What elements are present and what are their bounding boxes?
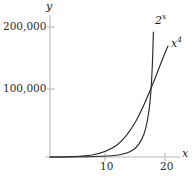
y-tick-label-200000: 200,000 bbox=[3, 21, 46, 32]
y-tick-label-100000: 100,000 bbox=[3, 83, 46, 94]
curve-label-exp-base: 2 bbox=[155, 14, 162, 27]
curve-2-to-the-x bbox=[50, 32, 153, 157]
curve-label-x-power-4: x4 bbox=[171, 38, 182, 49]
curve-label-2-to-the-x: 2x bbox=[155, 15, 166, 26]
y-axis-label: y bbox=[46, 1, 52, 12]
x-tick-label-20: 20 bbox=[160, 161, 173, 172]
curve-label-pow-exponent: 4 bbox=[177, 35, 182, 44]
x-axis-label: x bbox=[182, 148, 188, 159]
x-tick-label-10: 10 bbox=[100, 161, 113, 172]
figure-chart-exponential-vs-power: 200,000 100,000 10 20 y x 2x x4 bbox=[0, 0, 193, 176]
curve-label-exp-exponent: x bbox=[162, 12, 166, 21]
